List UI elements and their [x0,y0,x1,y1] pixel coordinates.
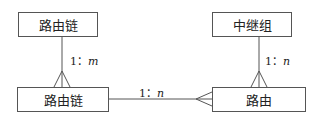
entity-route-chain-top: 路由链 [18,12,98,37]
entity-relay-group: 中继组 [212,12,292,37]
entity-label: 路由 [246,90,272,109]
cardinality-label-chain-chain: 1：m [70,52,98,68]
entity-label: 中继组 [233,15,272,34]
entity-route: 路由 [212,87,306,112]
entity-label: 路由链 [39,15,78,34]
entity-label: 路由链 [44,90,83,109]
entity-route-chain-bottom: 路由链 [17,87,109,112]
cardinality-label-chain-route: 1：n [139,84,164,100]
cardinality-label-relay-route: 1：n [265,52,290,68]
